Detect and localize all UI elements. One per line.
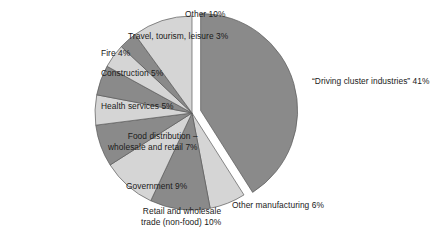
pie-label-construction: Construction 5% [101,68,163,79]
pie-label-line: trade (non-food) 10% [141,217,221,228]
pie-label-fire: Fire 4% [101,48,130,59]
pie-label-line: Travel, tourism, leisure 3% [128,31,228,42]
pie-label-food-distribution: Food distribution –wholesale and retail … [108,131,198,153]
pie-label-other: Other 10% [185,9,226,20]
pie-label-line: Retail and wholesale [141,206,221,217]
pie-label-health-services: Health services 5% [101,101,174,112]
pie-label-government: Government 9% [126,181,187,192]
pie-label-other-manufacturing: Other manufacturing 6% [232,200,324,211]
pie-label-line: Construction 5% [101,68,163,79]
pie-label-line: Other 10% [185,9,226,20]
pie-label-line: wholesale and retail 7% [108,142,198,153]
pie-chart-figure: “Driving cluster industries” 41%Other ma… [0,0,439,243]
pie-label-retail-wholesale-trade: Retail and wholesaletrade (non-food) 10% [141,206,221,228]
pie-label-travel-tourism-leisure: Travel, tourism, leisure 3% [128,31,228,42]
pie-label-line: Health services 5% [101,101,174,112]
pie-label-line: “Driving cluster industries” 41% [312,76,430,87]
pie-label-line: Other manufacturing 6% [232,200,324,211]
pie-label-driving-cluster-industries: “Driving cluster industries” 41% [312,76,430,87]
pie-label-line: Fire 4% [101,48,130,59]
pie-label-line: Food distribution – [108,131,198,142]
pie-label-line: Government 9% [126,181,187,192]
